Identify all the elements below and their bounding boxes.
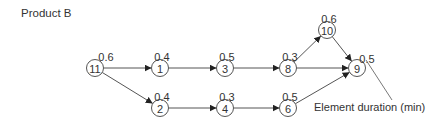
- node-id-label: 1: [157, 63, 163, 75]
- node-2: 20.4: [152, 91, 170, 117]
- node-duration-label: 0.5: [359, 53, 374, 65]
- annotation-label: Element duration (min): [314, 101, 425, 113]
- node-duration-label: 0.3: [282, 51, 297, 63]
- node-duration-label: 0.5: [219, 51, 234, 63]
- node-4: 40.3: [217, 91, 235, 117]
- node-duration-label: 0.4: [154, 91, 169, 103]
- node-duration-label: 0.6: [321, 13, 336, 25]
- node-duration-label: 0.6: [98, 51, 113, 63]
- annotation-leader-line: [366, 60, 392, 100]
- edge-11-to-2: [102, 72, 153, 103]
- node-11: 110.6: [87, 51, 114, 77]
- node-id-label: 6: [285, 103, 291, 115]
- node-id-label: 2: [157, 103, 163, 115]
- edge-8-to-10: [294, 36, 321, 62]
- node-id-label: 3: [222, 63, 228, 75]
- node-1: 10.4: [152, 51, 170, 77]
- node-id-label: 11: [89, 63, 100, 75]
- node-6: 60.5: [280, 91, 298, 117]
- node-id-label: 8: [285, 63, 291, 75]
- edge-6-to-9: [295, 72, 349, 103]
- node-id-label: 10: [321, 25, 333, 37]
- node-duration-label: 0.4: [154, 51, 169, 63]
- precedence-diagram: 110.610.430.580.3100.690.520.440.360.5 E…: [0, 0, 441, 123]
- node-10: 100.6: [319, 13, 337, 39]
- node-duration-label: 0.5: [282, 91, 297, 103]
- edge-10-to-9: [332, 37, 351, 62]
- node-3: 30.5: [217, 51, 235, 77]
- node-9: 90.5: [349, 53, 375, 77]
- node-duration-label: 0.3: [219, 91, 234, 103]
- node-id-label: 4: [222, 103, 228, 115]
- node-8: 80.3: [280, 51, 298, 77]
